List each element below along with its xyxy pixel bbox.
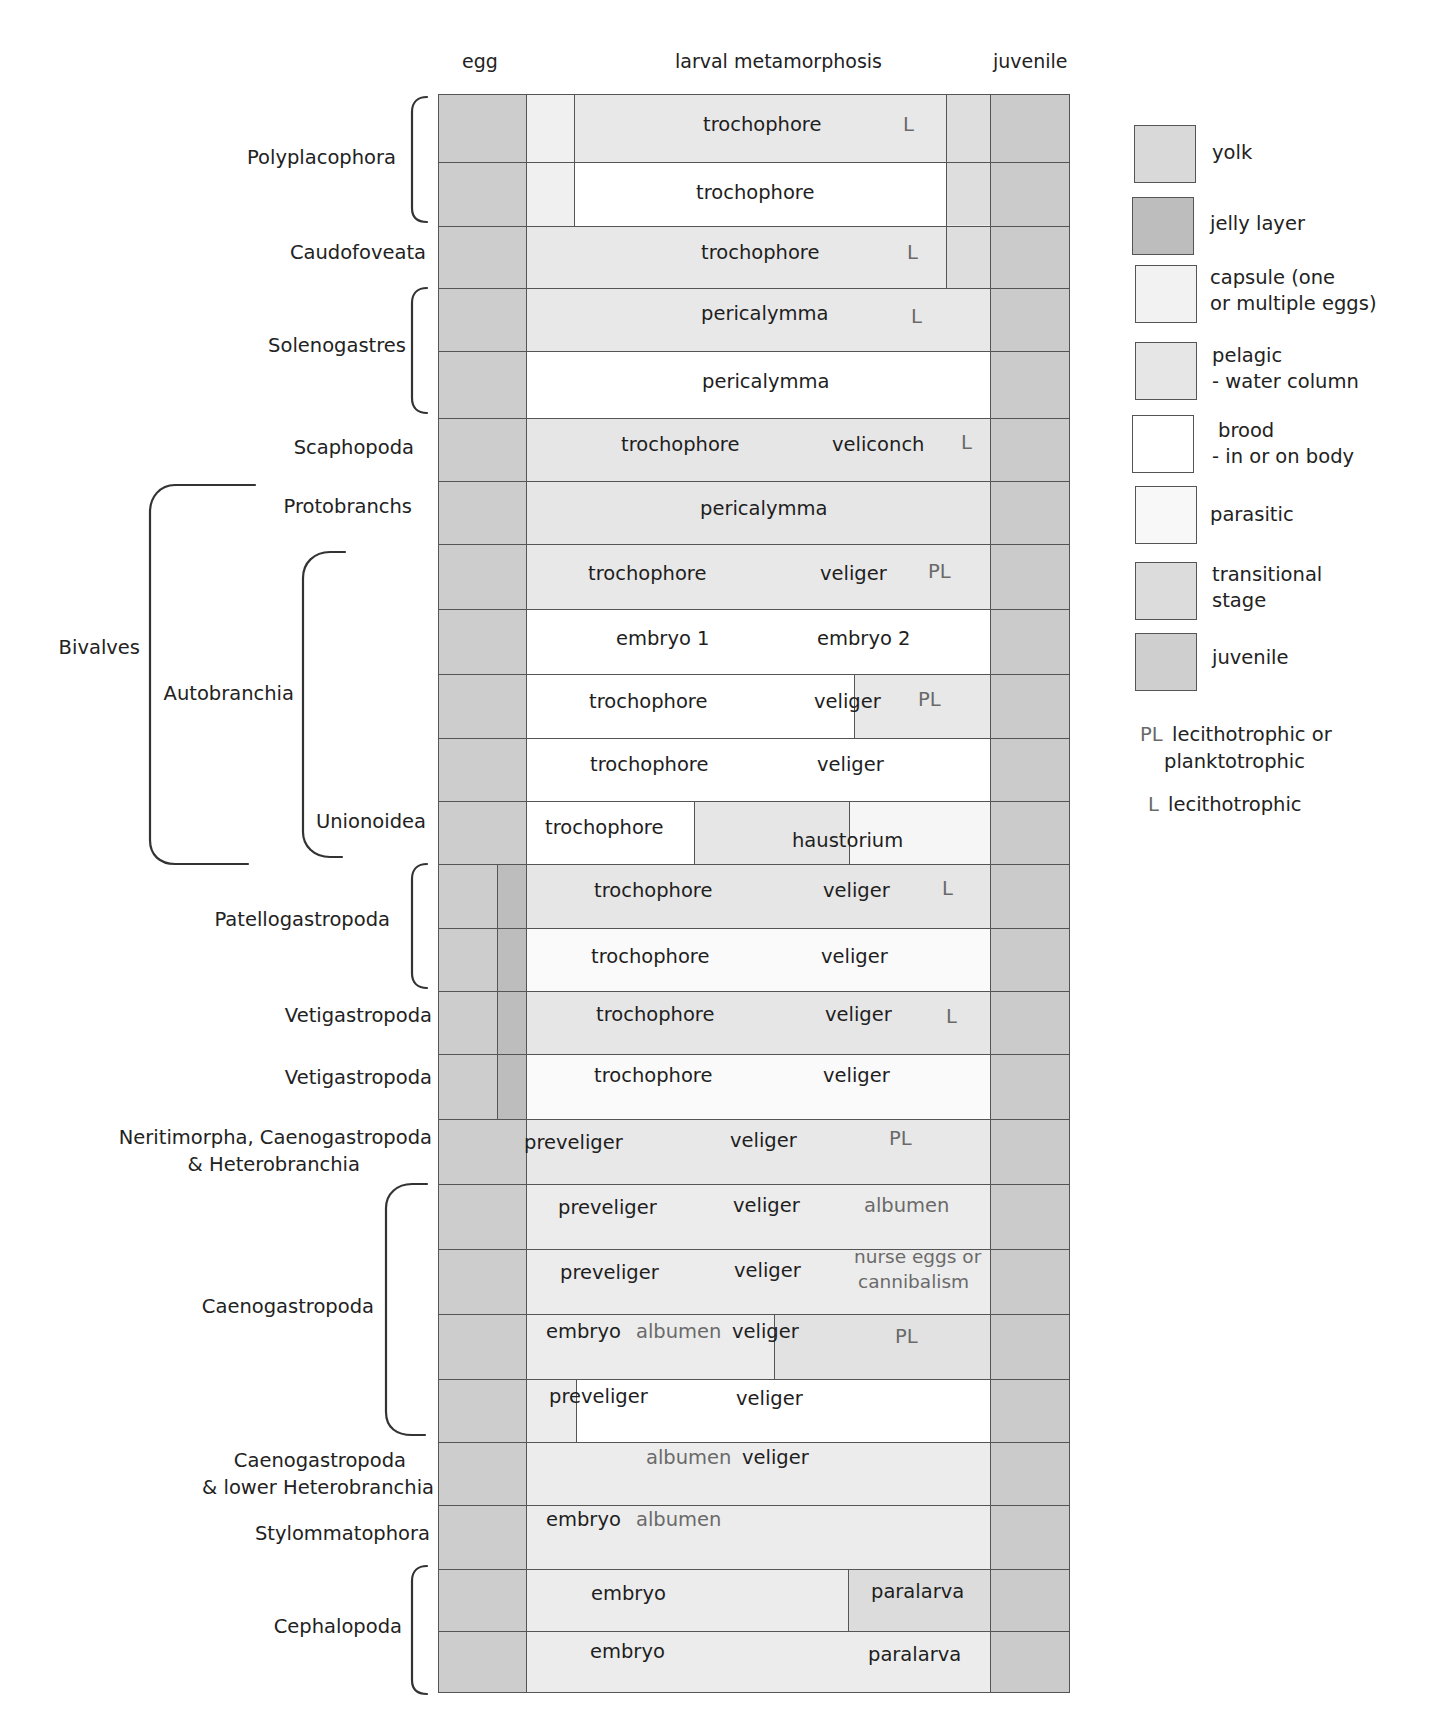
stage-label: trochophore [696, 181, 814, 204]
bracket-solenogastres [412, 288, 427, 413]
stage-label: veliger [736, 1387, 803, 1410]
legend-swatch-parasitic [1135, 486, 1197, 544]
feeding-code: L [911, 305, 922, 328]
row-divider [439, 288, 1069, 289]
divider [574, 95, 575, 226]
nutrition-label: nurse eggs or [854, 1246, 981, 1267]
row-divider [439, 418, 1069, 419]
bracket-caenogastropoda [386, 1184, 427, 1435]
row-divider [439, 801, 1069, 802]
egg-column-divider [526, 95, 527, 1692]
row-divider [439, 738, 1069, 739]
stage-label: veliger [825, 1003, 892, 1026]
bracket-polyplacophora [412, 97, 427, 222]
stage-label: embryo [546, 1320, 621, 1343]
feeding-code: PL [918, 688, 941, 711]
legend-swatch-brood [1132, 415, 1194, 473]
stage-label: preveliger [560, 1261, 659, 1284]
legend-label-yolk: yolk [1212, 140, 1252, 166]
row-divider [439, 162, 1069, 163]
row-divider [439, 1314, 1069, 1315]
stage-label: veliger [733, 1194, 800, 1217]
stage-label: veliger [732, 1320, 799, 1343]
pelagic-region [775, 1314, 991, 1379]
row-divider [439, 1569, 1069, 1570]
legend-label-pelagic: pelagic - water column [1212, 343, 1359, 396]
bracket-autobranchia [303, 552, 345, 857]
capsule-region [527, 1569, 849, 1631]
stage-label: trochophore [621, 433, 739, 456]
capsule-region [527, 95, 575, 162]
row-divider [439, 1442, 1069, 1443]
legend-swatch-yolk [1134, 125, 1196, 183]
stage-label: embryo 1 [616, 627, 709, 650]
transitional-region [947, 226, 991, 288]
row-divider [439, 351, 1069, 352]
stage-label: preveliger [558, 1196, 657, 1219]
stage-label: embryo [591, 1582, 666, 1605]
feeding-code: L [946, 1005, 957, 1028]
feeding-code: L [903, 113, 914, 136]
feeding-code: PL [928, 560, 951, 583]
bracket-bivalves [150, 485, 255, 864]
stage-label: trochophore [545, 816, 663, 839]
stage-label: embryo 2 [817, 627, 910, 650]
capsule-region [527, 162, 575, 226]
legend-swatch-juvenile [1135, 633, 1197, 691]
stage-label: embryo [546, 1508, 621, 1531]
stage-label: veliger [823, 1064, 890, 1087]
nutrition-label: albumen [864, 1194, 949, 1217]
row-divider [439, 481, 1069, 482]
stage-label: veliger [817, 753, 884, 776]
row-divider [439, 1379, 1069, 1380]
row-divider [439, 226, 1069, 227]
transitional-region [947, 95, 991, 225]
row-divider [439, 864, 1069, 865]
legend-swatch-transitional [1135, 562, 1197, 620]
stage-label: pericalymma [702, 370, 829, 393]
legend-label-transitional: transitional stage [1212, 562, 1322, 615]
row-divider [439, 544, 1069, 545]
juvenile-column [991, 95, 1069, 1692]
stage-label: trochophore [596, 1003, 714, 1026]
bracket-patellogastropoda [412, 864, 427, 988]
nutrition-label: albumen [636, 1320, 721, 1343]
stage-label: trochophore [594, 1064, 712, 1087]
column-header-juvenile: juvenile [993, 50, 1068, 72]
stage-label: trochophore [594, 879, 712, 902]
stage-label: preveliger [549, 1385, 648, 1408]
stage-label: veliger [814, 690, 881, 713]
legend-label-jelly-layer: jelly layer [1210, 211, 1305, 237]
legend-code-pl: PL [1140, 722, 1163, 748]
divider [848, 1569, 849, 1631]
legend-label-juvenile: juvenile [1212, 645, 1289, 671]
stage-label: pericalymma [700, 497, 827, 520]
row-divider [439, 1631, 1069, 1632]
feeding-code: L [961, 431, 972, 454]
legend-text-pl-line2: planktotrophic [1164, 749, 1305, 775]
nutrition-label: albumen [636, 1508, 721, 1531]
stage-label: preveliger [524, 1131, 623, 1154]
nutrition-label: albumen [646, 1446, 731, 1469]
row-divider [439, 928, 1069, 929]
stage-label: veliconch [832, 433, 924, 456]
feeding-code: L [907, 241, 918, 264]
stage-label: pericalymma [701, 302, 828, 325]
row-divider [439, 1184, 1069, 1185]
stage-label: veliger [821, 945, 888, 968]
stage-label: embryo [590, 1640, 665, 1663]
legend-swatch-jelly-layer [1132, 197, 1194, 255]
stage-label: trochophore [590, 753, 708, 776]
stage-label: veliger [730, 1129, 797, 1152]
bracket-cephalopoda [412, 1566, 427, 1694]
divider [946, 95, 947, 288]
legend-swatch-capsule [1135, 265, 1197, 323]
legend-code-l: L [1148, 792, 1159, 818]
stage-label: veliger [742, 1446, 809, 1469]
legend-swatch-pelagic [1135, 342, 1197, 400]
legend-label-brood: brood - in or on body [1212, 418, 1354, 471]
stage-label: haustorium [792, 829, 903, 852]
brood-region [527, 609, 991, 674]
juvenile-column-divider [990, 95, 991, 1692]
feeding-code: PL [889, 1127, 912, 1150]
